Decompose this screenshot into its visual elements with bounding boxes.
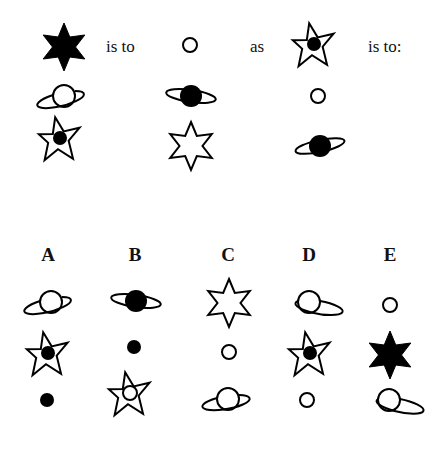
option-c-small-hollow-circle-icon[interactable] (220, 343, 238, 361)
question-term-a-filled-six-point-star-icon (40, 23, 88, 71)
grid-r2c2-hollow-six-point-star-icon (167, 122, 215, 170)
text-is-to: is to (106, 38, 135, 55)
option-c-hollow-ringed-planet-icon[interactable] (202, 385, 254, 413)
option-d-five-point-star-with-dot-icon[interactable] (288, 331, 332, 375)
option-b-small-filled-dot-icon[interactable] (126, 339, 142, 355)
option-b-five-point-star-with-circle-icon[interactable] (108, 371, 152, 415)
grid-r1c2-filled-ringed-planet-icon (164, 82, 218, 110)
option-a-hollow-ringed-planet-icon[interactable] (25, 288, 77, 316)
grid-r2c3-filled-ringed-planet-icon (293, 132, 347, 160)
grid-r1c1-hollow-ringed-planet-icon (38, 82, 90, 110)
option-label-b[interactable]: B (129, 245, 142, 264)
option-label-a[interactable]: A (41, 245, 55, 264)
option-e-filled-six-point-star-icon[interactable] (366, 331, 414, 379)
option-b-filled-ringed-planet-icon[interactable] (109, 287, 163, 315)
grid-r1c3-small-hollow-circle-icon (309, 87, 327, 105)
option-a-five-point-star-with-dot-icon[interactable] (26, 331, 70, 375)
option-d-hollow-ringed-planet-icon[interactable] (283, 288, 335, 316)
option-a-small-filled-dot-icon[interactable] (39, 392, 55, 408)
text-as: as (250, 38, 264, 55)
question-term-b-small-hollow-circle-icon (181, 36, 199, 54)
text-is-to-colon: is to: (368, 38, 402, 55)
option-label-c[interactable]: C (221, 245, 235, 264)
question-term-c-five-point-star-with-dot-icon (292, 22, 336, 66)
option-e-hollow-ringed-planet-icon[interactable] (363, 386, 415, 414)
option-e-small-hollow-circle-icon[interactable] (381, 296, 399, 314)
option-label-e[interactable]: E (384, 245, 397, 264)
option-c-hollow-six-point-star-icon[interactable] (205, 279, 253, 327)
grid-r2c1-five-point-star-with-dot-icon (38, 116, 82, 160)
option-label-d[interactable]: D (302, 245, 316, 264)
option-d-small-hollow-circle-icon[interactable] (298, 391, 316, 409)
